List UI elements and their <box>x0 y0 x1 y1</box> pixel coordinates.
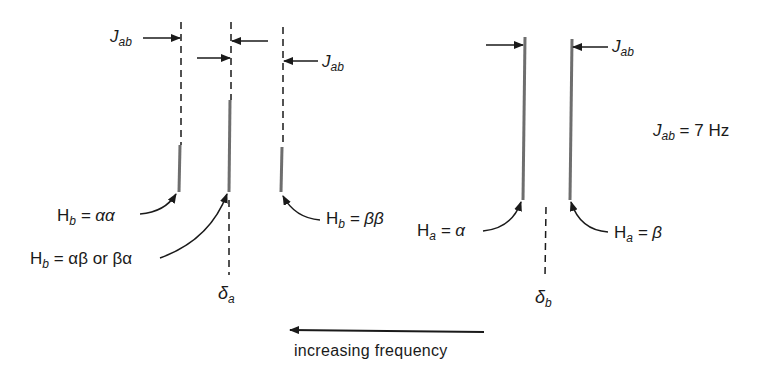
label-hb-beta-beta: Hb = ββ <box>326 210 384 230</box>
h-subscript: a <box>429 229 436 243</box>
j-subscript: ab <box>119 35 132 49</box>
h-symbol: H <box>326 209 338 228</box>
delta-a-label: δa <box>218 284 235 305</box>
j-symbol: J <box>110 27 119 46</box>
spin-state: = β <box>638 223 662 242</box>
peak-alpha-beta <box>229 100 230 192</box>
label-ha-alpha: Ha = α <box>417 222 465 242</box>
nmr-splitting-diagram <box>0 0 764 384</box>
delta-b-label: δb <box>535 288 552 309</box>
frequency-direction-arrow <box>290 330 484 332</box>
h-symbol: H <box>614 223 626 242</box>
j-label-triplet-right: Jab <box>322 53 344 73</box>
delta-symbol: δ <box>218 283 228 303</box>
peak-beta-beta <box>281 147 282 192</box>
coupling-constant-label: Jab = 7 Hz <box>653 122 729 142</box>
delta-b-center-line <box>545 207 546 277</box>
frequency-caption: increasing frequency <box>294 342 448 360</box>
spin-state: = ββ <box>350 209 384 228</box>
j-label-doublet: Jab <box>612 38 634 58</box>
peak-alpha <box>523 37 525 200</box>
j-subscript: ab <box>331 60 344 74</box>
j-symbol: J <box>322 52 331 71</box>
j-subscript: ab <box>621 45 634 59</box>
peak-alpha-alpha <box>179 145 180 192</box>
h-subscript: a <box>626 231 633 245</box>
j-label-triplet-left: Jab <box>110 28 132 48</box>
h-subscript: b <box>69 214 76 228</box>
h-symbol: H <box>417 221 429 240</box>
spin-state: = α <box>441 221 465 240</box>
spin-state: = αβ or βα <box>54 249 132 268</box>
spin-state: = αα <box>81 206 115 225</box>
doublet-j-arrows <box>486 45 608 47</box>
delta-subscript: a <box>228 292 235 306</box>
peak-beta <box>570 39 572 200</box>
label-hb-alpha-alpha: Hb = αα <box>57 207 115 227</box>
label-hb-alpha-beta: Hb = αβ or βα <box>30 250 132 270</box>
h-symbol: H <box>30 249 42 268</box>
h-subscript: b <box>338 217 345 231</box>
j-symbol: J <box>653 121 662 140</box>
label-ha-beta: Ha = β <box>614 224 662 244</box>
j-symbol: J <box>612 37 621 56</box>
h-subscript: b <box>42 257 49 271</box>
doublet-peaks <box>523 37 572 200</box>
triplet-peaks <box>179 100 282 192</box>
j-subscript: ab <box>662 129 675 143</box>
delta-symbol: δ <box>535 287 545 307</box>
coupling-value: = 7 Hz <box>680 121 730 140</box>
h-symbol: H <box>57 206 69 225</box>
delta-subscript: b <box>545 296 552 310</box>
